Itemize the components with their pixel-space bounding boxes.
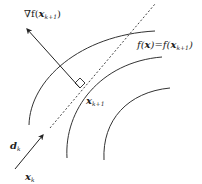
tangent-line-dotted <box>50 4 155 128</box>
point-label: xk+1 <box>85 95 104 107</box>
gradient-arrow <box>27 29 80 88</box>
diagram-canvas: ∇f(xk+1) f(x)=f(xk+1) xk+1 dk xk <box>0 0 202 184</box>
direction-arrow <box>15 135 43 169</box>
level-curve-inner <box>104 88 170 160</box>
level-curve-middle <box>67 57 162 158</box>
direction-label: dk <box>10 140 21 152</box>
level-set-label: f(x)=f(xk+1) <box>136 39 193 51</box>
start-label: xk <box>24 171 35 183</box>
gradient-label: ∇f(xk+1) <box>24 8 61 20</box>
right-angle-marker <box>75 78 85 88</box>
